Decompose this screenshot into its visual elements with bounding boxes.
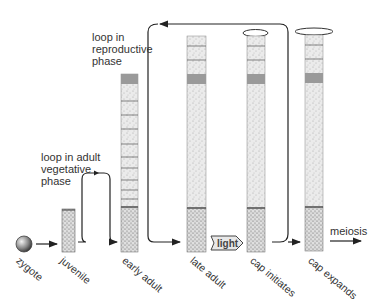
loop-vegetative-line-2: vegetative — [41, 163, 100, 175]
loop-vegetative-line-3: phase — [41, 175, 100, 187]
cap-initiates-stalk — [243, 30, 268, 253]
juvenile-stalk — [62, 209, 75, 252]
meiosis-label: meiosis — [330, 225, 367, 237]
svg-text:light: light — [217, 238, 239, 249]
loop-vegetative-line-1: loop in adult — [41, 151, 100, 163]
light-trigger-arrow: light — [211, 236, 243, 250]
loop-vegetative-label: loop in adult vegetative phase — [41, 151, 100, 187]
loop-reproductive-line-3: phase — [92, 55, 153, 67]
reproductive-loop — [148, 24, 288, 242]
loop-reproductive-line-2: reproductive — [92, 43, 153, 55]
zygote-cell — [16, 236, 32, 252]
cap-expands-stalk — [295, 28, 333, 251]
loop-reproductive-label: loop in reproductive phase — [92, 31, 153, 67]
early-adult-stalk — [121, 74, 138, 252]
loop-reproductive-line-1: loop in — [92, 31, 153, 43]
late-adult-stalk — [187, 36, 206, 252]
